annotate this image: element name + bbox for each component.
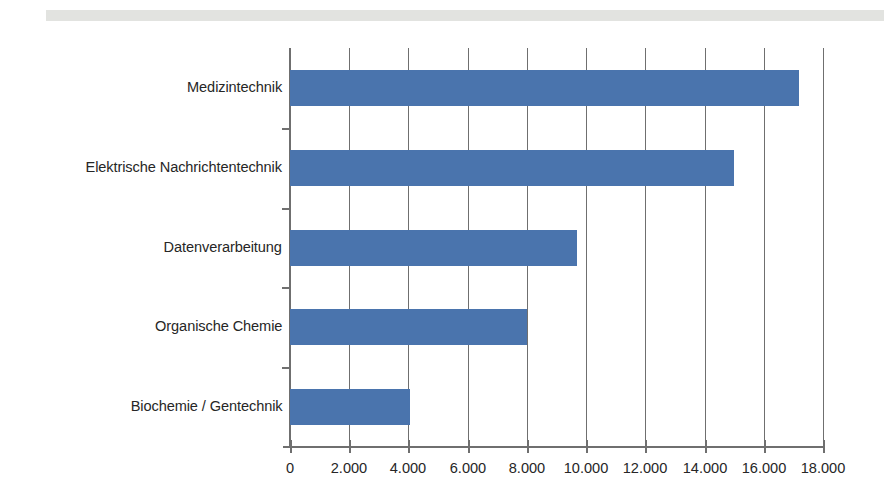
category-label-text: Datenverarbeitung xyxy=(164,238,282,256)
x-axis-tick xyxy=(705,440,707,453)
bar-chart: MedizintechnikElektrische Nachrichtentec… xyxy=(0,0,884,501)
category-label-text: Biochemie / Gentechnik xyxy=(130,397,282,415)
category-label: Elektrische Nachrichtentechnik xyxy=(0,158,282,176)
x-tick-label: 18.000 xyxy=(801,459,846,477)
x-axis-line xyxy=(283,446,824,448)
x-tick-label: 0 xyxy=(286,459,294,477)
x-tick-label: 14.000 xyxy=(682,459,727,477)
x-tick-label: 16.000 xyxy=(741,459,786,477)
category-label: Medizintechnik xyxy=(0,78,282,96)
category-label-text: Medizintechnik xyxy=(187,78,282,96)
bar xyxy=(290,309,527,345)
gridline xyxy=(586,48,587,447)
x-axis-tick xyxy=(764,440,766,453)
x-tick-label: 8.000 xyxy=(509,459,545,477)
x-axis-tick xyxy=(645,440,647,453)
category-label: Organische Chemie xyxy=(0,317,282,335)
x-tick-label: 4.000 xyxy=(390,459,426,477)
x-axis-tick xyxy=(408,440,410,453)
bar xyxy=(290,389,410,425)
category-label: Biochemie / Gentechnik xyxy=(0,397,282,415)
category-label-text: Organische Chemie xyxy=(155,317,282,335)
bar xyxy=(290,150,734,186)
bar xyxy=(290,230,577,266)
gridline xyxy=(705,48,706,447)
bar xyxy=(290,70,799,106)
category-label-text: Elektrische Nachrichtentechnik xyxy=(86,158,282,176)
y-axis-tick xyxy=(282,367,291,369)
y-axis-tick xyxy=(282,208,291,210)
gridline xyxy=(764,48,765,447)
x-axis-tick xyxy=(349,440,351,453)
x-tick-label: 10.000 xyxy=(564,459,609,477)
gridline xyxy=(645,48,646,447)
x-axis-tick xyxy=(586,440,588,453)
x-axis-tick xyxy=(468,440,470,453)
x-tick-label: 6.000 xyxy=(449,459,485,477)
x-axis-tick xyxy=(527,440,529,453)
x-axis-tick xyxy=(823,440,825,453)
x-axis-tick xyxy=(290,440,292,453)
category-label: Datenverarbeitung xyxy=(0,238,282,256)
x-tick-label: 2.000 xyxy=(331,459,367,477)
x-tick-label: 12.000 xyxy=(623,459,668,477)
y-axis-tick xyxy=(282,287,291,289)
gridline xyxy=(823,48,824,447)
y-axis-tick xyxy=(282,128,291,130)
